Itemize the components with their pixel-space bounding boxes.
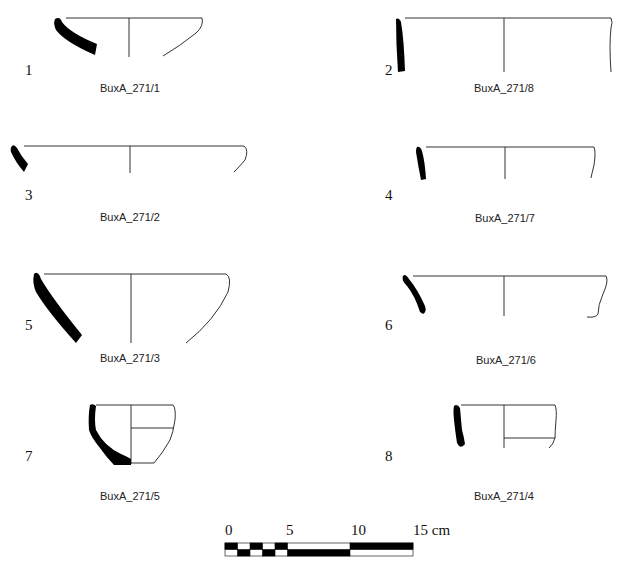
- scale-tick-10: 10: [351, 522, 366, 539]
- sherd-profile-4: [426, 147, 595, 179]
- section-2: [396, 18, 405, 72]
- sherd-number-5: 5: [25, 317, 33, 334]
- sherd-number-6: 6: [385, 317, 393, 334]
- section-8: [454, 405, 466, 447]
- sherd-number-1: 1: [25, 62, 33, 79]
- section-3: [11, 145, 28, 172]
- section-6: [403, 275, 426, 314]
- scale-tick-0: 0: [225, 522, 233, 539]
- sherd-number-3: 3: [25, 187, 33, 204]
- sherd-label-5: BuxA_271/3: [70, 352, 190, 364]
- sherd-number-7: 7: [25, 448, 33, 465]
- sherd-label-8: BuxA_271/4: [444, 490, 564, 502]
- sherd-number-2: 2: [385, 62, 393, 79]
- sherd-label-6: BuxA_271/6: [446, 354, 566, 366]
- sherd-label-1: BuxA_271/1: [70, 82, 190, 94]
- pottery-plate: 1 2 3 4 5 6 7 8 BuxA_271/1 BuxA_271/8 Bu…: [0, 0, 618, 565]
- sherd-label-7: BuxA_271/5: [70, 490, 190, 502]
- sherd-profile-8: [461, 405, 556, 448]
- sherd-label-4: BuxA_271/7: [445, 212, 565, 224]
- section-1: [54, 18, 97, 55]
- section-5: [33, 273, 82, 343]
- sherd-label-3: BuxA_271/2: [70, 211, 190, 223]
- scale-tick-15cm: 15 cm: [413, 522, 450, 539]
- sherd-profile-6: [413, 276, 607, 317]
- scale-tick-5: 5: [286, 522, 294, 539]
- sherd-profile-1: [66, 18, 202, 57]
- section-7: [89, 404, 131, 465]
- sherd-number-4: 4: [385, 187, 393, 204]
- sherd-number-8: 8: [385, 448, 393, 465]
- sherd-label-2: BuxA_271/8: [444, 82, 564, 94]
- scale-bar-graphic: [225, 543, 413, 556]
- sherd-profile-2: [405, 18, 612, 72]
- sherd-profile-3: [24, 146, 247, 173]
- section-4: [416, 147, 426, 180]
